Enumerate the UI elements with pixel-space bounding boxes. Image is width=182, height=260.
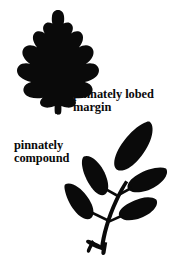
compound-leaf-shape bbox=[64, 122, 167, 255]
caption-line-2: margin bbox=[73, 101, 154, 114]
leaflet-right-upper bbox=[128, 168, 168, 193]
leaflet-stalk-left-lower bbox=[92, 212, 110, 222]
caption-pinnately-lobed-margin: pinnately lobed margin bbox=[73, 88, 154, 114]
pinnately-compound-leaf-illustration bbox=[62, 116, 172, 256]
leaflet-right-lower bbox=[119, 197, 157, 220]
leaflet-terminal bbox=[114, 122, 152, 171]
leaf-morphology-figure: pinnately lobed margin pinnately compoun… bbox=[0, 0, 182, 260]
leaflet-left-lower bbox=[64, 184, 93, 220]
